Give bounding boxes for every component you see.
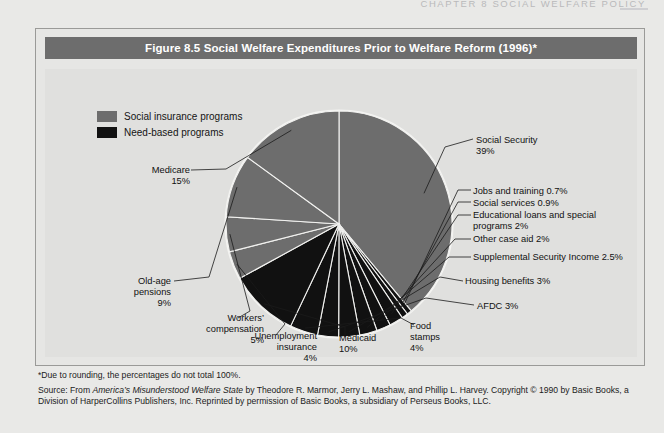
chart-panel: Social insurance programs Need-based pro… xyxy=(45,69,637,357)
source-title: America’s Misunderstood Welfare State xyxy=(92,385,243,395)
callout-housing-benefits: Housing benefits 3% xyxy=(465,276,550,287)
figure-footnote: *Due to rounding, the percentages do not… xyxy=(38,370,642,382)
figure-title: Figure 8.5 Social Welfare Expenditures P… xyxy=(45,37,637,59)
callout-medicare: Medicare 15% xyxy=(105,165,190,187)
callout-unemployment-insurance: Unemployment insurance 4% xyxy=(233,331,317,365)
figure-notes: *Due to rounding, the percentages do not… xyxy=(38,370,642,408)
callout-jobs-training: Jobs and training 0.7% xyxy=(473,186,568,197)
callout-educational-loans: Educational loans and special programs 2… xyxy=(473,210,625,232)
callout-other-case-aid: Other case aid 2% xyxy=(473,234,549,245)
figure-source: Source: From America’s Misunderstood Wel… xyxy=(38,385,642,408)
callout-afdc: AFDC 3% xyxy=(477,301,518,312)
callout-old-age-pensions: Old-age pensions 9% xyxy=(85,276,171,310)
source-line-2: of HarperCollins Publishers, Inc. Reprin… xyxy=(70,396,490,406)
callout-social-security: Social Security 39% xyxy=(476,135,538,157)
callout-social-services: Social services 0.9% xyxy=(473,198,559,209)
running-head: CHAPTER 8 SOCIAL WELFARE POLICY xyxy=(0,0,664,10)
source-prefix: Source: From xyxy=(38,385,92,395)
figure-box: Figure 8.5 Social Welfare Expenditures P… xyxy=(35,28,645,366)
callout-medicaid: Medicaid 10% xyxy=(339,333,376,355)
pie-slice-group xyxy=(224,109,453,338)
callout-food-stamps: Food stamps 4% xyxy=(410,321,440,355)
callout-ssi: Supplemental Security Income 2.5% xyxy=(473,252,623,263)
running-head-rule xyxy=(620,8,648,10)
